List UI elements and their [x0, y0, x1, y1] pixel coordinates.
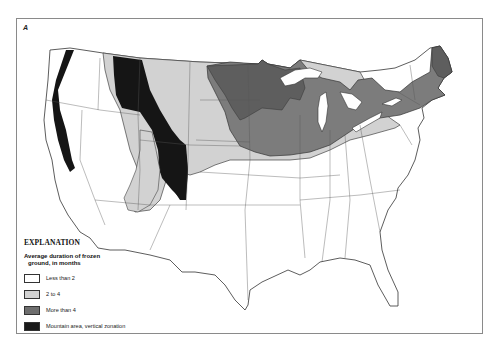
legend-swatch-light-gray [24, 290, 40, 299]
legend-label: 2 to 4 [46, 291, 60, 297]
legend-subtitle: Average duration of frozen ground, in mo… [24, 253, 154, 267]
legend: EXPLANATION Average duration of frozen g… [24, 238, 154, 331]
legend-label: Less than 2 [46, 275, 75, 281]
legend-swatch-dark-gray [24, 306, 40, 315]
legend-item-2-to-4: 2 to 4 [24, 289, 154, 299]
legend-subtitle-line1: Average duration of frozen [24, 253, 100, 259]
legend-swatch-white [24, 274, 40, 283]
legend-item-mountain: Mountain area, vertical zonation [24, 321, 154, 331]
legend-item-less-than-2: Less than 2 [24, 273, 154, 283]
legend-title: EXPLANATION [24, 238, 154, 247]
legend-swatch-black [24, 322, 40, 331]
legend-label: More than 4 [46, 307, 76, 313]
legend-subtitle-line2: ground, in months [24, 260, 154, 267]
legend-label: Mountain area, vertical zonation [46, 323, 125, 329]
legend-item-more-than-4: More than 4 [24, 305, 154, 315]
